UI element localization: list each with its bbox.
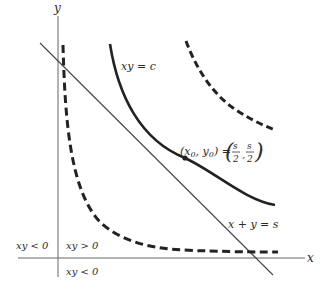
line-label: x + y = s <box>228 218 279 231</box>
y-axis-label: y <box>53 1 61 15</box>
svg-text:s: s <box>247 141 252 151</box>
svg-text:s: s <box>233 141 238 151</box>
region-q1-label: xy > 0 <box>66 240 99 251</box>
point-label: (x0, y0) = ( s 2 , s 2 ) <box>180 139 264 164</box>
diagram-canvas: x y xy = c x + y = s (x0, y0) = ( s 2 , … <box>0 0 325 292</box>
hyperbola-label: xy = c <box>121 60 156 73</box>
outer-dashed-hyperbola <box>186 41 275 130</box>
svg-text:,: , <box>242 149 245 160</box>
svg-text:2: 2 <box>246 154 253 164</box>
svg-text:2: 2 <box>232 154 239 164</box>
svg-text:): ) <box>254 139 264 164</box>
svg-text:(x0, y0) =: (x0, y0) = <box>180 145 231 159</box>
x-axis-label: x <box>307 251 314 265</box>
region-q4-label: xy < 0 <box>66 266 99 277</box>
region-q2-label: xy < 0 <box>16 240 49 251</box>
